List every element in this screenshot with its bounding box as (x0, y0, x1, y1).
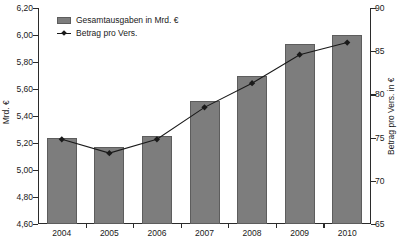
y-left-tick-label: 5,60 (16, 85, 33, 94)
y-right-tick-label: 70 (375, 177, 384, 186)
bar-2004 (47, 138, 77, 224)
bar-2006 (142, 136, 172, 224)
x-axis-tick-mark (323, 224, 324, 228)
x-axis-label-2004: 2004 (52, 229, 71, 238)
y-left-tick-label: 4,80 (16, 193, 33, 202)
legend-label-betrag-pro-vers: Betrag pro Vers. (76, 29, 137, 38)
y-right-tick-mark (371, 51, 376, 52)
x-axis-tick-mark (86, 224, 87, 228)
chart-legend: Gesamtausgaben in Mrd. € Betrag pro Vers… (57, 14, 179, 40)
y-axis-right-title: Betrag pro Vers. in € (387, 36, 396, 196)
bar-2008 (237, 76, 267, 225)
y-left-tick-mark (33, 89, 38, 90)
y-right-tick-mark (371, 138, 376, 139)
x-axis-label-2008: 2008 (243, 229, 262, 238)
legend-item-gesamtausgaben: Gesamtausgaben in Mrd. € (57, 14, 179, 26)
y-left-tick-mark (33, 8, 38, 9)
y-right-tick-mark (371, 8, 376, 9)
bar-2007 (190, 101, 220, 224)
x-axis-label-2009: 2009 (290, 229, 309, 238)
chart-container: 4,604,805,005,205,405,605,806,006,20 657… (0, 0, 405, 247)
y-left-tick-label: 5,80 (16, 58, 33, 67)
x-axis-label-2010: 2010 (338, 229, 357, 238)
y-left-tick-mark (33, 170, 38, 171)
y-left-tick-label: 4,60 (16, 220, 33, 229)
x-axis-label-2007: 2007 (195, 229, 214, 238)
y-left-tick-mark (33, 62, 38, 63)
x-axis-label-2005: 2005 (100, 229, 119, 238)
y-right-tick-label: 65 (375, 220, 384, 229)
x-axis-tick-mark (181, 224, 182, 228)
line-diamond-swatch-icon (57, 30, 71, 37)
y-right-tick-label: 75 (375, 134, 384, 143)
bar-swatch-icon (57, 17, 71, 24)
y-left-tick-label: 5,40 (16, 112, 33, 121)
y-left-tick-label: 5,20 (16, 139, 33, 148)
y-right-tick-label: 80 (375, 90, 384, 99)
bar-2010 (332, 35, 362, 224)
y-left-tick-mark (33, 35, 38, 36)
y-right-tick-label: 85 (375, 47, 384, 56)
y-left-tick-mark (33, 197, 38, 198)
y-left-tick-label: 5,00 (16, 166, 33, 175)
y-right-tick-mark (371, 224, 376, 225)
y-left-tick-mark (33, 116, 38, 117)
y-right-tick-label: 90 (375, 4, 384, 13)
y-left-tick-label: 6,00 (16, 31, 33, 40)
y-left-tick-mark (33, 143, 38, 144)
y-left-tick-label: 6,20 (16, 4, 33, 13)
x-axis-tick-mark (228, 224, 229, 228)
y-left-tick-mark (33, 224, 38, 225)
legend-label-gesamtausgaben: Gesamtausgaben in Mrd. € (76, 16, 179, 25)
legend-item-betrag-pro-vers: Betrag pro Vers. (57, 27, 179, 39)
x-axis-label-2006: 2006 (147, 229, 166, 238)
y-right-tick-mark (371, 181, 376, 182)
bar-2009 (285, 44, 315, 224)
y-right-tick-mark (371, 94, 376, 95)
x-axis-tick-mark (133, 224, 134, 228)
y-axis-left-title: Mrd. € (2, 82, 11, 142)
bar-2005 (94, 147, 124, 224)
x-axis-tick-mark (276, 224, 277, 228)
